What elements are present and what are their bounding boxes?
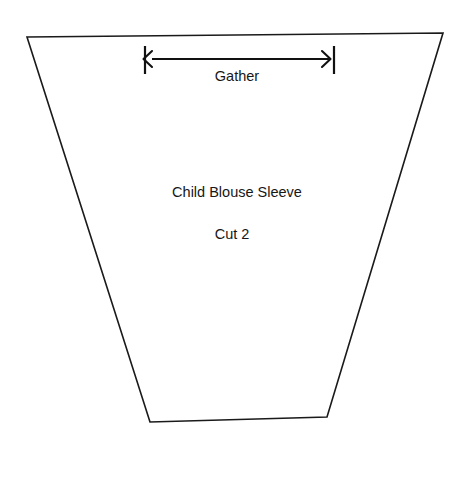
pattern-canvas: Gather Child Blouse Sleeve Cut 2 (0, 0, 465, 477)
gather-label: Gather (215, 68, 259, 85)
cut-count-label: Cut 2 (215, 226, 250, 243)
piece-name-label: Child Blouse Sleeve (172, 184, 302, 201)
